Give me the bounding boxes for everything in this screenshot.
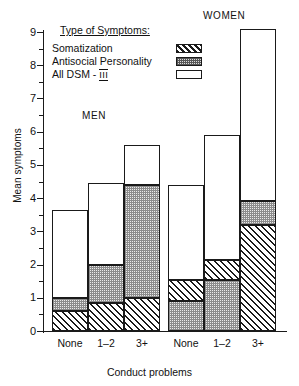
x-category-label-3: None (168, 337, 204, 349)
segment-somatization (88, 303, 124, 331)
segment-antisocial-personality (88, 265, 124, 303)
legend-label-antisocial: Antisocial Personality (52, 55, 152, 67)
segment-somatization (240, 225, 276, 331)
x-axis-title: Conduct problems (0, 366, 299, 378)
y-tick-7 (37, 98, 43, 99)
y-tick-8 (37, 65, 43, 66)
segment-all-dsm-iii (168, 185, 204, 280)
group-label-women: WOMEN (203, 10, 245, 21)
y-minor-tick-1.5 (39, 281, 43, 282)
segment-all-dsm-iii (52, 210, 88, 298)
y-minor-tick-4.5 (39, 182, 43, 183)
segment-somatization (204, 260, 240, 280)
x-category-label-4: 1–2 (204, 337, 240, 349)
y-tick-label-9: 9 (16, 27, 36, 38)
bar-women-3+[interactable] (240, 32, 276, 331)
segment-antisocial-personality (240, 201, 276, 224)
legend-label-alldsm: All DSM - III (52, 68, 108, 81)
legend-title: Type of Symptoms: (60, 24, 150, 36)
segment-antisocial-personality (52, 298, 88, 311)
antisocial-swatch-icon (176, 57, 202, 66)
y-tick-2 (37, 265, 43, 266)
legend-item-alldsm: All DSM - III (52, 68, 202, 80)
segment-all-dsm-iii (204, 135, 240, 260)
roman-numeral-three: III (99, 69, 108, 81)
y-tick-label-2: 2 (16, 259, 36, 270)
legend-label-somatization: Somatization (52, 42, 113, 54)
y-tick-4 (37, 198, 43, 199)
segment-antisocial-personality (204, 280, 240, 331)
y-tick-9 (37, 32, 43, 33)
chart-container: 0123456789 Mean symptoms Conduct problem… (0, 0, 299, 386)
y-tick-6 (37, 132, 43, 133)
alldsm-swatch-icon (176, 70, 202, 79)
y-minor-tick-2.5 (39, 248, 43, 249)
y-minor-tick-5.5 (39, 148, 43, 149)
y-axis-title: Mean symptoms (12, 111, 23, 221)
x-category-label-0: None (52, 337, 88, 349)
bar-women-12[interactable] (204, 32, 240, 331)
y-tick-label-8: 8 (16, 60, 36, 71)
y-tick-1 (37, 298, 43, 299)
y-tick-5 (37, 165, 43, 166)
y-tick-0 (37, 331, 43, 332)
y-minor-tick-6.5 (39, 115, 43, 116)
segment-somatization (52, 311, 88, 331)
y-tick-label-1: 1 (16, 292, 36, 303)
legend-label-alldsm-text: All DSM - (52, 68, 99, 80)
x-category-label-2: 3+ (124, 337, 160, 349)
legend: Type of Symptoms: Somatization Antisocia… (52, 20, 202, 81)
y-tick-label-7: 7 (16, 93, 36, 104)
segment-antisocial-personality (124, 185, 160, 298)
x-category-label-1: 1–2 (88, 337, 124, 349)
legend-item-somatization: Somatization (52, 42, 202, 54)
y-tick-label-0: 0 (16, 326, 36, 337)
segment-all-dsm-iii (124, 145, 160, 185)
segment-somatization (124, 298, 160, 331)
segment-all-dsm-iii (88, 183, 124, 264)
y-minor-tick-0.5 (39, 314, 43, 315)
x-axis-line (43, 331, 287, 332)
y-minor-tick-3.5 (39, 215, 43, 216)
x-category-label-5: 3+ (240, 337, 276, 349)
segment-all-dsm-iii (240, 29, 276, 202)
y-tick-label-3: 3 (16, 226, 36, 237)
somatization-swatch-icon (176, 44, 202, 53)
y-minor-tick-7.5 (39, 82, 43, 83)
y-tick-3 (37, 231, 43, 232)
group-label-men: MEN (82, 110, 106, 121)
y-minor-tick-8.5 (39, 49, 43, 50)
segment-somatization (168, 280, 204, 302)
legend-item-antisocial: Antisocial Personality (52, 55, 202, 67)
segment-antisocial-personality (168, 301, 204, 331)
